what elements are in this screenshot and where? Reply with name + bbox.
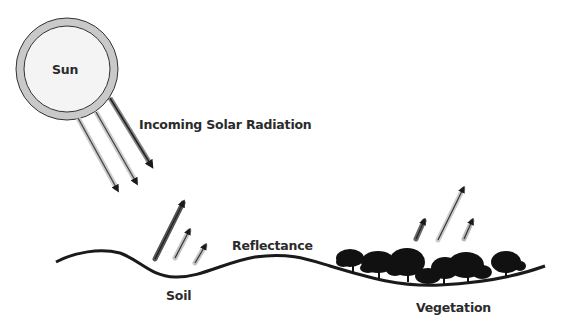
soil-reflectance-arrows bbox=[155, 203, 205, 263]
soil-label: Soil bbox=[166, 288, 191, 303]
diagram-canvas bbox=[0, 0, 562, 333]
incoming-radiation-label: Incoming Solar Radiation bbox=[139, 117, 312, 132]
vegetation-reflectance-arrows bbox=[416, 189, 472, 240]
remote-sensing-diagram: Sun Incoming Solar Radiation Reflectance… bbox=[0, 0, 562, 333]
sun-label: Sun bbox=[52, 62, 78, 77]
reflectance-label: Reflectance bbox=[232, 238, 313, 253]
vegetation-label: Vegetation bbox=[416, 300, 491, 315]
